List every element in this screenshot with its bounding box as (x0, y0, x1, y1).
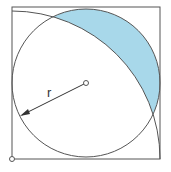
diagram-svg: r (0, 0, 171, 172)
corner-point (10, 157, 15, 162)
geometry-diagram: r (0, 0, 171, 172)
radius-label: r (47, 85, 52, 100)
center-point (84, 81, 89, 86)
shaded-region (0, 0, 171, 172)
